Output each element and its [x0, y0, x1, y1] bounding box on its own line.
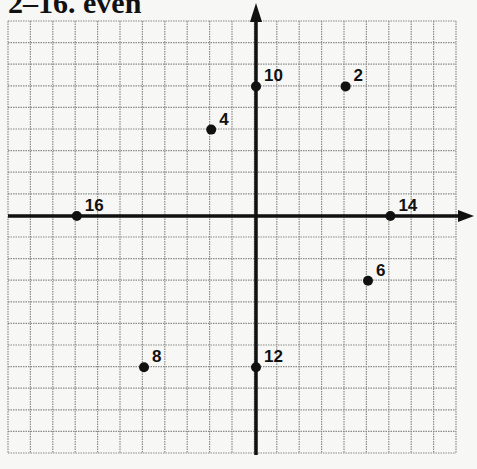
point-label-2: 2	[354, 66, 363, 85]
point-label-4: 4	[219, 110, 229, 129]
data-point-2	[341, 81, 351, 91]
point-label-8: 8	[152, 347, 161, 366]
data-point-12	[251, 362, 261, 372]
data-point-14	[385, 211, 395, 221]
point-label-16: 16	[85, 196, 104, 215]
x-axis-arrow-icon	[458, 210, 474, 222]
data-point-6	[363, 276, 373, 286]
coordinate-plane: 246810121416	[0, 0, 477, 469]
point-label-14: 14	[398, 196, 417, 215]
point-label-6: 6	[376, 261, 385, 280]
y-axis-arrow-icon	[250, 3, 262, 22]
point-label-12: 12	[264, 347, 283, 366]
data-point-4	[206, 125, 216, 135]
data-point-10	[251, 81, 261, 91]
data-point-8	[139, 362, 149, 372]
point-label-10: 10	[264, 66, 283, 85]
data-point-16	[72, 211, 82, 221]
